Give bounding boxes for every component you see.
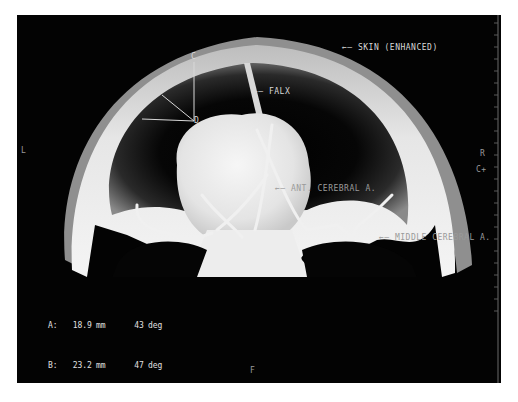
measurement-length-unit: mm bbox=[92, 362, 114, 370]
measurement-readout: A:18.9mm43deg B:23.2mm47deg C:23.2mm0deg… bbox=[19, 298, 170, 383]
measurement-key: B: bbox=[48, 362, 58, 370]
annotation-middle-cerebral: ←— MIDDLE CEREBRAL A. bbox=[379, 234, 491, 242]
measurement-angle: 43 bbox=[114, 322, 144, 330]
angle-marker-d[interactable]: D bbox=[194, 117, 199, 125]
skull-base-shadow-right bbox=[302, 242, 417, 277]
annotation-skin: ←— SKIN (ENHANCED) bbox=[342, 44, 438, 52]
measurement-angle: 47 bbox=[114, 362, 144, 370]
orientation-left: L bbox=[21, 147, 26, 155]
orientation-foot: F bbox=[250, 367, 255, 375]
measurement-row: B:23.2mm47deg bbox=[19, 354, 170, 378]
measurement-angle-unit: deg bbox=[144, 322, 170, 330]
window-level-readout: W:1916 L:1707 bbox=[427, 368, 489, 383]
angle-marker-c[interactable]: C bbox=[191, 53, 196, 61]
skull-base-shadow-left bbox=[112, 242, 207, 277]
scale-ruler-ticks bbox=[494, 23, 498, 311]
orientation-right: R bbox=[480, 150, 485, 158]
tumor-mass bbox=[177, 113, 311, 243]
annotation-falx: ←— FALX bbox=[253, 88, 290, 96]
measurement-key: A: bbox=[48, 322, 58, 330]
measurement-row: A:18.9mm43deg bbox=[19, 314, 170, 338]
orientation-right-sub: C+ bbox=[476, 166, 487, 174]
measurement-length: 18.9 bbox=[58, 322, 92, 330]
measurement-length: 23.2 bbox=[58, 362, 92, 370]
measurement-length-unit: mm bbox=[92, 322, 114, 330]
image-viewport[interactable]: L R C+ F C D ←— SKIN (ENHANCED) ←— FALX … bbox=[17, 15, 501, 383]
measurement-angle-unit: deg bbox=[144, 362, 170, 370]
annotation-ant-cerebral: ←— ANT. CEREBRAL A. bbox=[275, 185, 376, 193]
